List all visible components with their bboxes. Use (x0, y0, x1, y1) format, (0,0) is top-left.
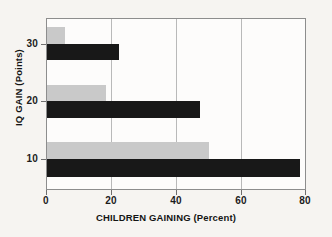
ytick-mark-10 (41, 159, 46, 160)
xtick-label-60: 60 (227, 195, 255, 206)
x-axis-label: CHILDREN GAINING (Percent) (0, 212, 332, 223)
y-axis-label: IQ GAIN (Points) (13, 18, 24, 158)
bar-iq10-light (47, 142, 209, 159)
xtick-label-80: 80 (291, 195, 319, 206)
bar-iq10-dark (47, 159, 300, 177)
xtick-label-0: 0 (32, 195, 60, 206)
xtick-label-20: 20 (97, 195, 125, 206)
xtick-label-40: 40 (162, 195, 190, 206)
plot-area (46, 18, 306, 190)
bar-iq30-dark (47, 44, 119, 60)
bar-chart: 0 20 40 60 80 30 20 10 CHILDREN GAINING … (0, 0, 332, 237)
bar-iq20-dark (47, 101, 200, 118)
ytick-mark-30 (41, 44, 46, 45)
bar-iq30-light (47, 27, 65, 44)
ytick-mark-20 (41, 101, 46, 102)
bar-iq20-light (47, 85, 106, 101)
